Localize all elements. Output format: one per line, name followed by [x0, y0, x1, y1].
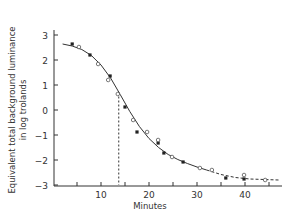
x-axis-ticks: 10203040 [77, 182, 269, 200]
filled-data-point [181, 160, 184, 163]
filled-data-point [123, 105, 126, 108]
open-data-point [145, 130, 149, 134]
open-data-point [131, 118, 135, 122]
y-tick-label: −1 [35, 131, 48, 141]
open-data-point [198, 166, 202, 170]
x-axis-title: Minutes [133, 201, 167, 211]
y-tick-label: 1 [42, 81, 48, 91]
filled-data-point [162, 151, 165, 154]
y-axis-ticks: 3210−1−2−3 [35, 31, 58, 191]
data-points [71, 42, 267, 181]
filled-data-point [135, 130, 138, 133]
filled-data-point [71, 42, 74, 45]
open-data-point [116, 92, 120, 96]
open-data-point [170, 155, 174, 159]
y-tick-label: −2 [35, 156, 48, 166]
open-data-point [96, 62, 100, 66]
y-tick-label: 0 [42, 106, 48, 116]
filled-data-point [224, 176, 227, 179]
y-tick-label: 3 [42, 31, 48, 41]
dark-adaptation-chart: 3210−1−2−3 10203040 Minutes Equivalent t… [0, 0, 291, 219]
open-data-point [106, 78, 110, 82]
y-axis-title-line-1: Equivalent total background luminance [7, 26, 17, 193]
open-data-point [210, 168, 214, 172]
y-tick-label: −3 [35, 181, 48, 191]
open-data-point [242, 173, 246, 177]
filled-data-point [88, 53, 91, 56]
x-tick-label: 40 [239, 190, 251, 200]
y-tick-label: 2 [42, 56, 48, 66]
open-data-point [77, 45, 81, 49]
open-data-point [263, 178, 267, 182]
fitted-curves [63, 44, 279, 180]
x-tick-label: 10 [95, 190, 107, 200]
filled-data-point [242, 177, 245, 180]
fitted-curve [63, 44, 207, 170]
x-tick-label: 30 [191, 190, 203, 200]
x-tick-label: 20 [143, 190, 155, 200]
filled-data-point [109, 74, 112, 77]
y-axis-title: Equivalent total background luminance in… [7, 26, 28, 193]
open-data-point [156, 138, 160, 142]
y-axis-title-line-2: in log trolands [18, 79, 28, 140]
